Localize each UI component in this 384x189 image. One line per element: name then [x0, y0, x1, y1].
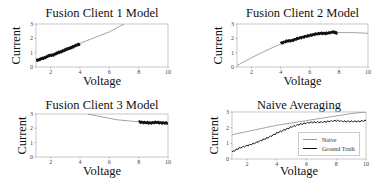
x-tick-label: 6 — [305, 161, 308, 167]
legend-swatch-ground-truth — [303, 148, 317, 149]
y-tick-label: 1 — [30, 50, 33, 56]
panel-client-2: Fusion Client 2 Model Current Voltage 24… — [192, 0, 384, 95]
x-tick-label: 10 — [165, 69, 171, 75]
x-tick-label: 4 — [279, 69, 282, 75]
legend-item-ground-truth: Ground Truth — [303, 144, 355, 153]
y-tick-label: 1 — [231, 50, 234, 56]
x-tick-label: 4 — [79, 69, 82, 75]
y-tick-label: 2 — [30, 125, 33, 131]
y-tick-label: 0 — [30, 154, 33, 160]
series-client-data — [281, 32, 338, 44]
x-tick-label: 2 — [49, 159, 52, 165]
x-tick-label: 8 — [137, 159, 140, 165]
y-tick-label: 0 — [30, 64, 33, 70]
x-tick-label: 8 — [337, 69, 340, 75]
legend-label: Ground Truth — [322, 146, 355, 152]
series-client-data — [139, 121, 168, 123]
y-tick-label: 3 — [30, 21, 33, 27]
x-tick-label: 10 — [363, 161, 369, 167]
x-tick-label: 2 — [49, 69, 52, 75]
x-tick-label: 6 — [108, 69, 111, 75]
legend-label: Naive — [322, 137, 336, 143]
y-tick-label: 2 — [231, 35, 234, 41]
panel-client-1: Fusion Client 1 Model Current Voltage 24… — [0, 0, 192, 95]
legend: Naive Ground Truth — [298, 132, 360, 156]
y-tick-label: 0 — [231, 64, 234, 70]
axes-frame — [36, 24, 168, 67]
x-tick-label: 2 — [250, 69, 253, 75]
y-tick-label: 2 — [30, 35, 33, 41]
series-client-data — [36, 44, 80, 61]
x-tick-label: 8 — [137, 69, 140, 75]
x-tick-label: 4 — [275, 161, 278, 167]
x-tick-label: 4 — [79, 159, 82, 165]
legend-item-naive: Naive — [303, 135, 355, 144]
y-tick-label: 2 — [226, 125, 229, 131]
panel-client-3: Fusion Client 3 Model Current Voltage 24… — [0, 95, 192, 189]
y-tick-label: 3 — [30, 111, 33, 117]
y-tick-label: 0 — [226, 156, 229, 162]
x-tick-label: 2 — [245, 161, 248, 167]
x-tick-label: 10 — [365, 69, 371, 75]
axes-frame — [237, 24, 368, 67]
plot-area: 2468100123 — [0, 0, 192, 95]
y-tick-label: 3 — [231, 21, 234, 27]
y-tick-label: 1 — [30, 140, 33, 146]
axes-frame — [36, 114, 168, 157]
plot-area: 2468100123 — [192, 0, 384, 95]
x-tick-label: 8 — [335, 161, 338, 167]
x-tick-label: 6 — [308, 69, 311, 75]
y-tick-label: 3 — [226, 109, 229, 115]
legend-swatch-naive — [303, 139, 317, 140]
y-tick-label: 1 — [226, 140, 229, 146]
x-tick-label: 6 — [108, 159, 111, 165]
panel-naive-averaging: Naive Averaging Current Voltage 24681001… — [192, 95, 384, 189]
plot-area: 2468100123 — [0, 95, 192, 189]
x-tick-label: 10 — [165, 159, 171, 165]
